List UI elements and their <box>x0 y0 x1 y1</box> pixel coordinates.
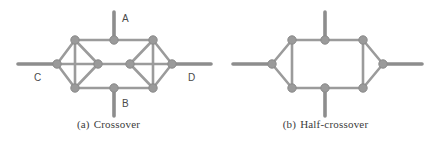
caption-tag-a: (a) <box>77 118 90 130</box>
bottom-left-node <box>288 84 296 92</box>
caption-tag-b: (b) <box>283 118 296 130</box>
half-crossover-graph-svg <box>217 0 434 118</box>
panel-crossover: (a)Crossover ABCD <box>0 0 217 144</box>
top-middle-node <box>321 36 329 44</box>
left-west-node <box>268 60 276 68</box>
graph-edge <box>75 40 98 64</box>
center-right-node <box>126 60 134 68</box>
port-label-a: A <box>122 14 129 24</box>
bottom-middle-node <box>110 84 118 92</box>
right-east-node <box>168 60 176 68</box>
port-label-c: C <box>34 73 41 83</box>
top-left-node <box>288 36 296 44</box>
port-label-b: B <box>122 99 129 109</box>
panel-half-crossover: (b)Half-crossover <box>217 0 434 144</box>
right-east-node <box>379 60 387 68</box>
graph-edge <box>75 64 98 88</box>
top-middle-node <box>110 36 118 44</box>
bottom-middle-node <box>321 84 329 92</box>
port-label-d: D <box>188 73 195 83</box>
crossover-graph-svg <box>0 0 217 118</box>
caption-crossover: (a)Crossover <box>0 118 217 130</box>
graph-edge <box>130 40 153 64</box>
caption-half-crossover: (b)Half-crossover <box>217 118 434 130</box>
top-right-node <box>359 36 367 44</box>
bottom-right-node <box>359 84 367 92</box>
caption-text-b: Half-crossover <box>300 118 368 130</box>
bottom-left-node <box>71 84 79 92</box>
bottom-right-node <box>149 84 157 92</box>
graph-edge <box>130 64 153 88</box>
caption-text-a: Crossover <box>94 118 140 130</box>
left-west-node <box>53 60 61 68</box>
top-right-node <box>149 36 157 44</box>
figure-root: (a)Crossover ABCD (b)Half-crossover <box>0 0 434 144</box>
center-left-node <box>94 60 102 68</box>
top-left-node <box>71 36 79 44</box>
